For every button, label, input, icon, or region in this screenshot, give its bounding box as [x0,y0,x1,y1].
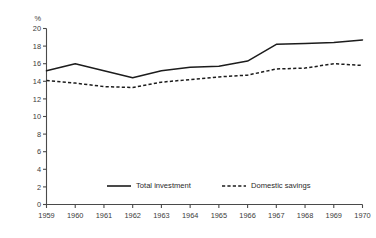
y-axis-tick-label: 20 [33,24,41,33]
chart-axes [47,29,363,205]
y-axis-tick-label: 10 [33,112,41,121]
x-axis-tick-label: 1967 [268,211,284,220]
y-axis-tick-label: 0 [37,200,41,209]
chart-canvas: 02468101214161820 1959196019611962196319… [0,0,376,238]
x-axis-ticks: 1959196019611962196319641965196619671968… [38,205,370,220]
x-axis-tick-label: 1963 [153,211,169,220]
chart-series [47,40,363,88]
x-axis-tick-label: 1968 [297,211,313,220]
y-axis-tick-label: 14 [33,77,41,86]
legend-label-2: Domestic savings [251,181,311,190]
x-axis-tick-label: 1966 [239,211,255,220]
x-axis-tick-label: 1962 [124,211,140,220]
y-axis-tick-label: 8 [37,130,41,139]
y-axis-unit-label: % [34,14,41,23]
series-line-1 [47,40,363,78]
x-axis-tick-label: 1965 [211,211,227,220]
x-axis-tick-label: 1969 [326,211,342,220]
y-axis-tick-label: 16 [33,59,41,68]
x-axis-tick-label: 1970 [354,211,370,220]
x-axis-tick-label: 1959 [38,211,54,220]
x-axis-tick-label: 1964 [182,211,198,220]
y-axis-tick-label: 2 [37,183,41,192]
chart-legend: Total investmentDomestic savings [107,181,311,190]
y-axis-tick-label: 12 [33,95,41,104]
legend-label-1: Total investment [136,181,192,190]
y-axis-ticks: 02468101214161820 [33,24,47,209]
x-axis-tick-label: 1961 [96,211,112,220]
y-axis-tick-label: 18 [33,42,41,51]
y-axis-tick-label: 6 [37,147,41,156]
line-chart: 02468101214161820 1959196019611962196319… [0,0,376,238]
y-axis-tick-label: 4 [37,165,41,174]
x-axis-tick-label: 1960 [67,211,83,220]
